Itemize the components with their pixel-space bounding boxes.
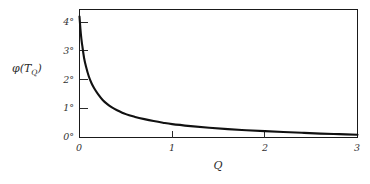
y-tick-label-1: 1° xyxy=(56,103,74,113)
plot-area xyxy=(0,0,370,184)
x-axis-title: Q xyxy=(213,160,222,171)
y-tick-label-2: 2° xyxy=(56,75,74,85)
x-axis-ticks xyxy=(172,131,265,138)
y-axis-title: φ(TQ) xyxy=(12,63,42,77)
y-tick-label-0: 0° xyxy=(56,132,74,142)
x-tick-label-2: 2 xyxy=(255,143,275,153)
y-tick-label-3: 3° xyxy=(56,46,74,56)
axes-frame xyxy=(80,10,358,138)
y-tick-label-4: 4° xyxy=(56,17,74,27)
data-series-group xyxy=(80,16,358,134)
axis-frame-rect xyxy=(80,10,358,138)
figure-container: 4° 3° 2° 1° 0° 0 1 2 3 φ(TQ) Q xyxy=(0,0,370,184)
y-axis-title-base: φ(T xyxy=(12,62,31,75)
x-tick-label-3: 3 xyxy=(347,143,367,153)
y-axis-title-close: ) xyxy=(38,62,42,75)
x-tick-label-0: 0 xyxy=(69,143,89,153)
x-tick-label-1: 1 xyxy=(162,143,182,153)
data-curve-phi xyxy=(80,16,358,134)
